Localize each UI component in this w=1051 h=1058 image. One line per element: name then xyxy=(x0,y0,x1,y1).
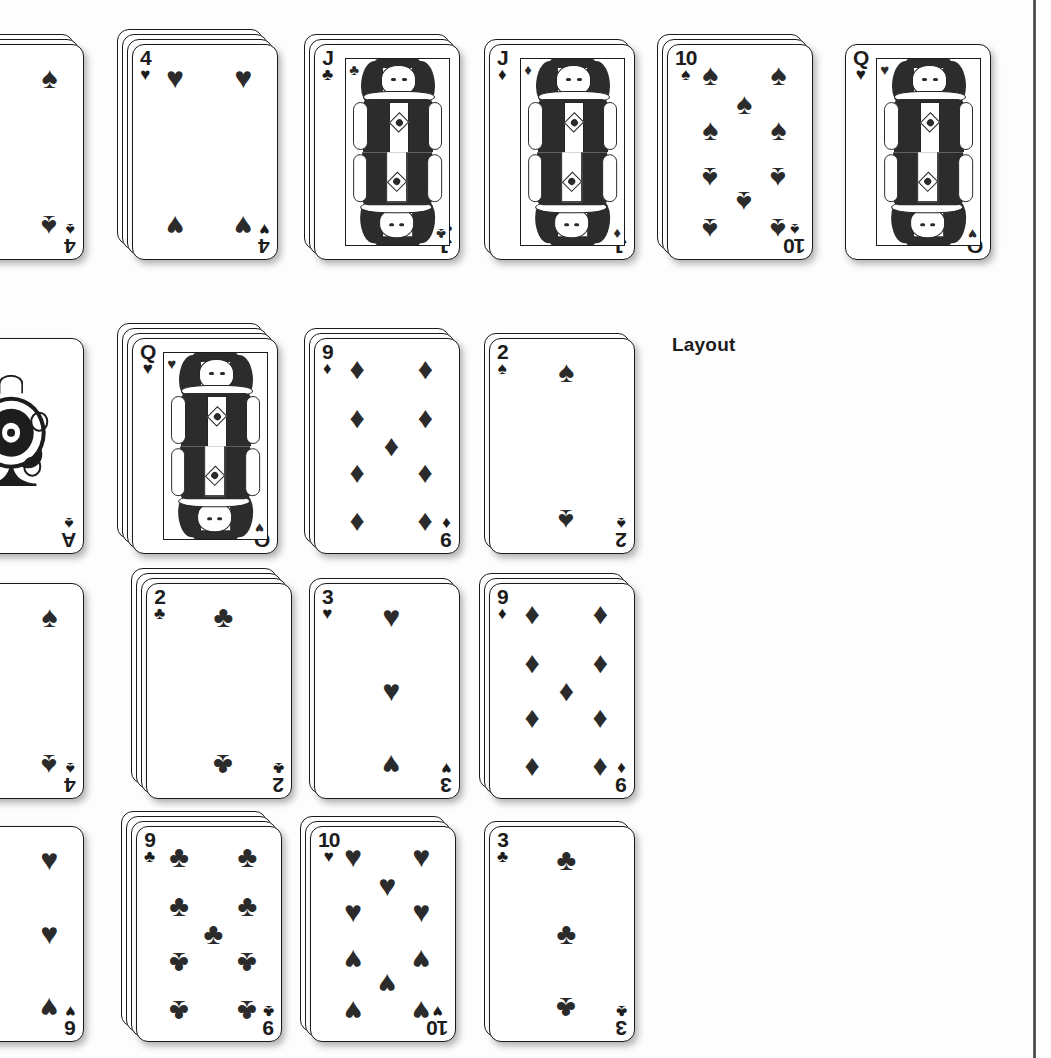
card-index-tl: 9♣ xyxy=(144,831,155,864)
card-pip: ♠ xyxy=(702,214,718,244)
card-pip: ♠ xyxy=(41,602,57,632)
card-pip: ♠ xyxy=(558,505,574,535)
playing-card-10-of-spades[interactable]: 10♠10♠♠♠♠♠♠♠♠♠♠♠ xyxy=(667,44,813,260)
card-pile[interactable]: 6♥6♥♥♥♥♥♥♥ xyxy=(0,826,89,1047)
playing-card-9-of-clubs[interactable]: 9♣9♣♣♣♣♣♣♣♣♣♣ xyxy=(136,826,282,1042)
card-index-tl: 4♥ xyxy=(140,49,151,82)
card-pile[interactable]: 10♥10♥♥♥♥♥♥♥♥♥♥♥ xyxy=(310,826,471,1057)
card-face: A♠A♠♠ xyxy=(0,339,83,553)
card-pip: ♣ xyxy=(238,996,258,1026)
court-figure-half: ♥ xyxy=(164,353,267,446)
playing-card-10-of-hearts[interactable]: 10♥10♥♥♥♥♥♥♥♥♥♥♥ xyxy=(310,826,456,1042)
card-face: 9♦9♦♦♦♦♦♦♦♦♦♦ xyxy=(490,584,634,798)
playing-card-a-of-spades[interactable]: A♠A♠♠ xyxy=(0,338,84,554)
card-pile[interactable]: Q♥Q♥♥♥ xyxy=(132,338,298,574)
card-pip-grid: ♥♥♥♥♥♥ xyxy=(0,842,69,1026)
card-suit-pip: ♥ xyxy=(322,607,332,621)
card-pile[interactable]: 4♠4♠♠♠♠♠ xyxy=(0,44,99,275)
card-pip: ♥ xyxy=(344,897,362,927)
playing-card-4-of-spades[interactable]: 4♠4♠♠♠♠♠ xyxy=(0,44,84,260)
playing-card-j-of-clubs[interactable]: J♣J♣♣♣ xyxy=(314,44,460,260)
card-pile[interactable]: 3♥3♥♥♥♥ xyxy=(314,583,470,809)
card-pip-grid: ♥♥♥♥ xyxy=(156,60,263,244)
playing-card-9-of-diamonds[interactable]: 9♦9♦♦♦♦♦♦♦♦♦♦ xyxy=(314,338,460,554)
card-pip: ♦ xyxy=(593,648,608,678)
court-figure-half: ♥ xyxy=(164,446,267,539)
card-suit-pip: ♦ xyxy=(498,68,507,82)
card-pip-grid: ♦♦♦♦♦♦♦♦♦ xyxy=(513,599,620,783)
card-pile[interactable]: Q♥Q♥♥♥ xyxy=(845,44,996,265)
card-pip-grid: ♥♥♥ xyxy=(338,599,445,783)
card-pip: ♣ xyxy=(169,948,189,978)
card-pip: ♠ xyxy=(558,357,574,387)
card-pile[interactable]: A♠A♠♠ xyxy=(0,338,89,559)
playing-card-2-of-clubs[interactable]: 2♣2♣♣♣ xyxy=(146,583,292,799)
card-pip: ♥ xyxy=(344,842,362,872)
card-face: J♦J♦♦♦ xyxy=(490,45,634,259)
card-face: 10♥10♥♥♥♥♥♥♥♥♥♥♥ xyxy=(311,827,455,1041)
card-suit-pip: ♣ xyxy=(497,850,508,864)
playing-card-j-of-diamonds[interactable]: J♦J♦♦♦ xyxy=(489,44,635,260)
card-pip-grid: ♠♠♠♠ xyxy=(0,60,69,244)
card-index-tl: Q♥ xyxy=(853,49,868,82)
card-pip: ♥ xyxy=(166,63,184,93)
card-pip: ♠ xyxy=(770,115,786,145)
card-pile[interactable]: 2♠2♠♠♠ xyxy=(489,338,645,564)
card-pip: ♣ xyxy=(238,891,258,921)
playing-card-4-of-hearts[interactable]: 4♥4♥♥♥♥♥ xyxy=(132,44,278,260)
card-face: 2♠2♠♠♠ xyxy=(490,339,634,553)
section-caption: Layout xyxy=(672,334,735,356)
court-figure-half: ♦ xyxy=(521,152,624,245)
playing-card-q-of-hearts[interactable]: Q♥Q♥♥♥ xyxy=(132,338,278,554)
card-index-br: A♠ xyxy=(62,516,76,549)
card-pip: ♣ xyxy=(169,891,189,921)
card-pip: ♥ xyxy=(344,945,362,975)
card-pip: ♥ xyxy=(378,871,396,901)
card-pip: ♥ xyxy=(344,996,362,1026)
card-pip: ♠ xyxy=(41,750,57,780)
card-face: 10♠10♠♠♠♠♠♠♠♠♠♠♠ xyxy=(668,45,812,259)
card-pip: ♦ xyxy=(525,599,540,629)
card-pile[interactable]: 4♠4♠♠♠♠♠ xyxy=(0,583,89,804)
playing-card-3-of-clubs[interactable]: 3♣3♣♣♣♣ xyxy=(489,826,635,1042)
card-pile[interactable]: J♣J♣♣♣ xyxy=(314,44,475,275)
card-index-tl: 2♠ xyxy=(497,343,508,376)
playing-card-4-of-spades[interactable]: 4♠4♠♠♠♠♠ xyxy=(0,583,84,799)
card-pile[interactable]: 9♣9♣♣♣♣♣♣♣♣♣♣ xyxy=(136,826,302,1058)
card-pile[interactable]: 10♠10♠♠♠♠♠♠♠♠♠♠♠ xyxy=(667,44,828,275)
card-face: 9♣9♣♣♣♣♣♣♣♣♣♣ xyxy=(137,827,281,1041)
card-index-tl: 9♦ xyxy=(322,343,333,376)
page-edge-rule xyxy=(1033,0,1036,1058)
card-pip: ♦ xyxy=(593,753,608,783)
card-pile[interactable]: J♦J♦♦♦ xyxy=(489,44,645,270)
card-suit-pip: ♠ xyxy=(681,68,690,82)
card-pile[interactable]: 9♦9♦♦♦♦♦♦♦♦♦♦ xyxy=(314,338,475,569)
card-suit-pip: ♣ xyxy=(144,850,155,864)
card-pip: ♣ xyxy=(556,845,576,875)
card-pile[interactable]: 2♣2♣♣♣ xyxy=(146,583,312,819)
card-pip: ♠ xyxy=(770,60,786,90)
playing-card-3-of-hearts[interactable]: 3♥3♥♥♥♥ xyxy=(314,583,460,799)
card-face: 2♣2♣♣♣ xyxy=(147,584,291,798)
card-pip: ♥ xyxy=(235,211,253,241)
card-pip: ♥ xyxy=(413,897,431,927)
card-pip: ♦ xyxy=(418,354,433,384)
playing-card-6-of-hearts[interactable]: 6♥6♥♥♥♥♥♥♥ xyxy=(0,826,84,1042)
card-pip: ♠ xyxy=(702,163,718,193)
playing-card-2-of-spades[interactable]: 2♠2♠♠♠ xyxy=(489,338,635,554)
card-pile[interactable]: 9♦9♦♦♦♦♦♦♦♦♦♦ xyxy=(489,583,650,814)
card-index-tl: 9♦ xyxy=(497,588,508,621)
card-pile[interactable]: 4♥4♥♥♥♥♥ xyxy=(132,44,298,280)
playing-card-9-of-diamonds[interactable]: 9♦9♦♦♦♦♦♦♦♦♦♦ xyxy=(489,583,635,799)
court-figure-half: ♥ xyxy=(877,59,980,152)
card-pip: ♥ xyxy=(166,211,184,241)
playing-card-q-of-hearts[interactable]: Q♥Q♥♥♥ xyxy=(845,44,991,260)
card-index-tl: J♦ xyxy=(497,49,508,82)
card-pip: ♥ xyxy=(41,919,59,949)
card-pile[interactable]: 3♣3♣♣♣♣ xyxy=(489,826,645,1052)
card-pip: ♣ xyxy=(556,919,576,949)
card-pip: ♦ xyxy=(418,403,433,433)
card-suit-pip: ♠ xyxy=(64,516,73,530)
card-face: 6♥6♥♥♥♥♥♥♥ xyxy=(0,827,83,1041)
card-pip: ♠ xyxy=(770,163,786,193)
